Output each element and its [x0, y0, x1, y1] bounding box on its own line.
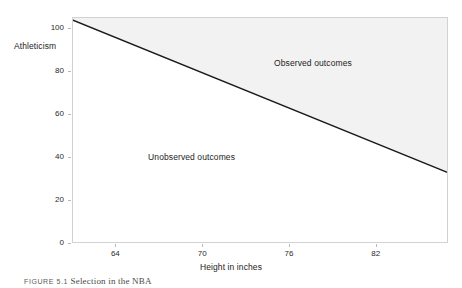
x-tick-mark [115, 244, 116, 247]
y-tick-mark [68, 243, 71, 244]
y-tick-label: 100 [38, 23, 64, 32]
y-tick-mark [68, 28, 71, 29]
x-axis-title: Height in inches [0, 262, 462, 272]
unobserved-outcomes-label: Unobserved outcomes [148, 152, 235, 162]
y-tick-label: 20 [38, 195, 64, 204]
y-tick-label: 0 [38, 238, 64, 247]
x-tick-label: 82 [361, 249, 391, 258]
x-tick-mark [289, 244, 290, 247]
x-tick-mark [202, 244, 203, 247]
figure-caption: FIGURE 5.1 Selection in the NBA [24, 276, 152, 286]
y-tick-label: 40 [38, 152, 64, 161]
x-tick-label: 70 [187, 249, 217, 258]
y-tick-mark [68, 71, 71, 72]
y-axis-title: Athleticism [14, 41, 56, 51]
plot-graphics [73, 18, 448, 243]
y-tick-mark [68, 157, 71, 158]
figure-caption-tag: FIGURE [24, 278, 54, 285]
figure-container: Athleticism 020406080100 64707682 Observ… [0, 0, 462, 288]
figure-caption-text: Selection in the NBA [70, 276, 151, 286]
y-tick-mark [68, 114, 71, 115]
y-tick-mark [68, 200, 71, 201]
y-tick-label: 60 [38, 109, 64, 118]
x-tick-mark [376, 244, 377, 247]
figure-caption-number: 5.1 [57, 278, 69, 285]
x-tick-label: 64 [100, 249, 130, 258]
x-tick-label: 76 [274, 249, 304, 258]
y-tick-label: 80 [38, 66, 64, 75]
observed-outcomes-label: Observed outcomes [274, 58, 352, 68]
plot-area: Observed outcomes Unobserved outcomes [72, 17, 448, 243]
